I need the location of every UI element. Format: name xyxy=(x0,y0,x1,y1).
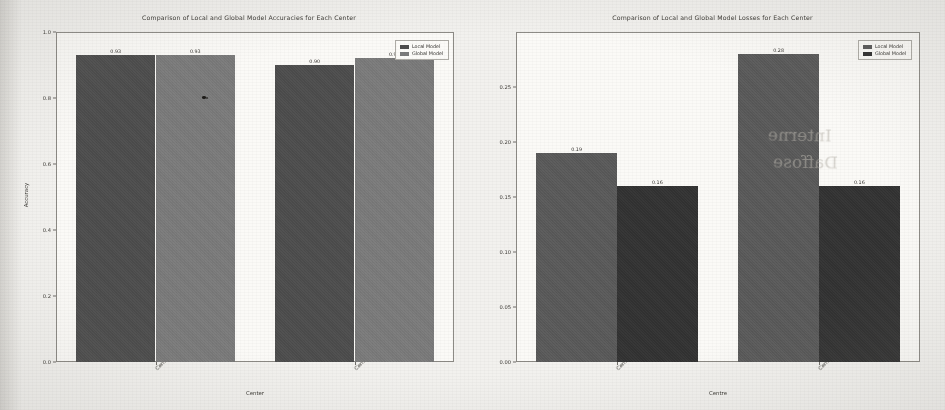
legend-row-global: Global Model xyxy=(863,51,906,56)
y-tick-label: 0.15 xyxy=(485,194,511,200)
y-tick-label: 0.6 xyxy=(25,161,51,167)
y-tick-mark xyxy=(513,197,516,198)
y-tick-mark xyxy=(513,307,516,308)
accuracy-panel: Comparison of Local and Global Model Acc… xyxy=(0,0,470,410)
legend-row-local: Local Model xyxy=(863,44,906,49)
y-tick-label: 0.4 xyxy=(25,227,51,233)
y-tick-mark xyxy=(513,252,516,253)
y-tick-mark xyxy=(53,98,56,99)
legend-swatch-global xyxy=(863,52,872,56)
bar-value-label: 0.16 xyxy=(652,180,663,185)
y-tick-label: 0.25 xyxy=(485,84,511,90)
loss-legend: Local Model Global Model xyxy=(858,40,912,60)
legend-swatch-local xyxy=(400,45,409,49)
y-tick-label: 0.20 xyxy=(485,139,511,145)
bar-local xyxy=(738,54,819,362)
y-tick-mark xyxy=(53,362,56,363)
legend-label-global: Global Model xyxy=(412,51,443,56)
bar-global xyxy=(819,186,900,362)
y-tick-mark xyxy=(513,362,516,363)
legend-row-local: Local Model xyxy=(400,44,443,49)
y-tick-label: 0.8 xyxy=(25,95,51,101)
legend-label-local: Local Model xyxy=(412,44,440,49)
bar-value-label: 0.93 xyxy=(110,49,121,54)
bar-global xyxy=(156,55,236,362)
bar-local xyxy=(536,153,617,362)
y-tick-label: 0.00 xyxy=(485,359,511,365)
legend-row-global: Global Model xyxy=(400,51,443,56)
loss-chart-title: Comparison of Local and Global Model Los… xyxy=(468,14,945,21)
legend-swatch-global xyxy=(400,52,409,56)
bar-value-label: 0.16 xyxy=(854,180,865,185)
y-tick-mark xyxy=(53,32,56,33)
y-tick-mark xyxy=(513,142,516,143)
bar-global xyxy=(617,186,698,362)
y-tick-mark xyxy=(513,87,516,88)
legend-label-global: Global Model xyxy=(875,51,906,56)
figure-canvas: Comparison of Local and Global Model Acc… xyxy=(0,0,945,410)
loss-x-axis-label: Centre xyxy=(658,390,778,396)
bar-local xyxy=(76,55,156,362)
bar-value-label: 0.28 xyxy=(773,48,784,53)
accuracy-legend: Local Model Global Model xyxy=(395,40,449,60)
bar-local xyxy=(275,65,355,362)
accuracy-x-axis-label: Center xyxy=(195,390,315,396)
y-tick-label: 1.0 xyxy=(25,29,51,35)
bar-value-label: 0.93 xyxy=(190,49,201,54)
y-tick-label: 0.2 xyxy=(25,293,51,299)
accuracy-chart-title: Comparison of Local and Global Model Acc… xyxy=(0,14,484,21)
accuracy-y-axis-label: Accuracy xyxy=(23,165,29,225)
y-tick-label: 0.0 xyxy=(25,359,51,365)
y-tick-mark xyxy=(53,164,56,165)
y-tick-mark xyxy=(53,230,56,231)
scan-speck-artifact xyxy=(206,97,208,99)
y-tick-mark xyxy=(53,296,56,297)
bar-value-label: 0.90 xyxy=(309,59,320,64)
legend-label-local: Local Model xyxy=(875,44,903,49)
legend-swatch-local xyxy=(863,45,872,49)
y-tick-label: 0.05 xyxy=(485,304,511,310)
bar-value-label: 0.19 xyxy=(571,147,582,152)
bar-global xyxy=(355,58,435,362)
loss-panel: Comparison of Local and Global Model Los… xyxy=(468,0,945,410)
y-tick-label: 0.10 xyxy=(485,249,511,255)
